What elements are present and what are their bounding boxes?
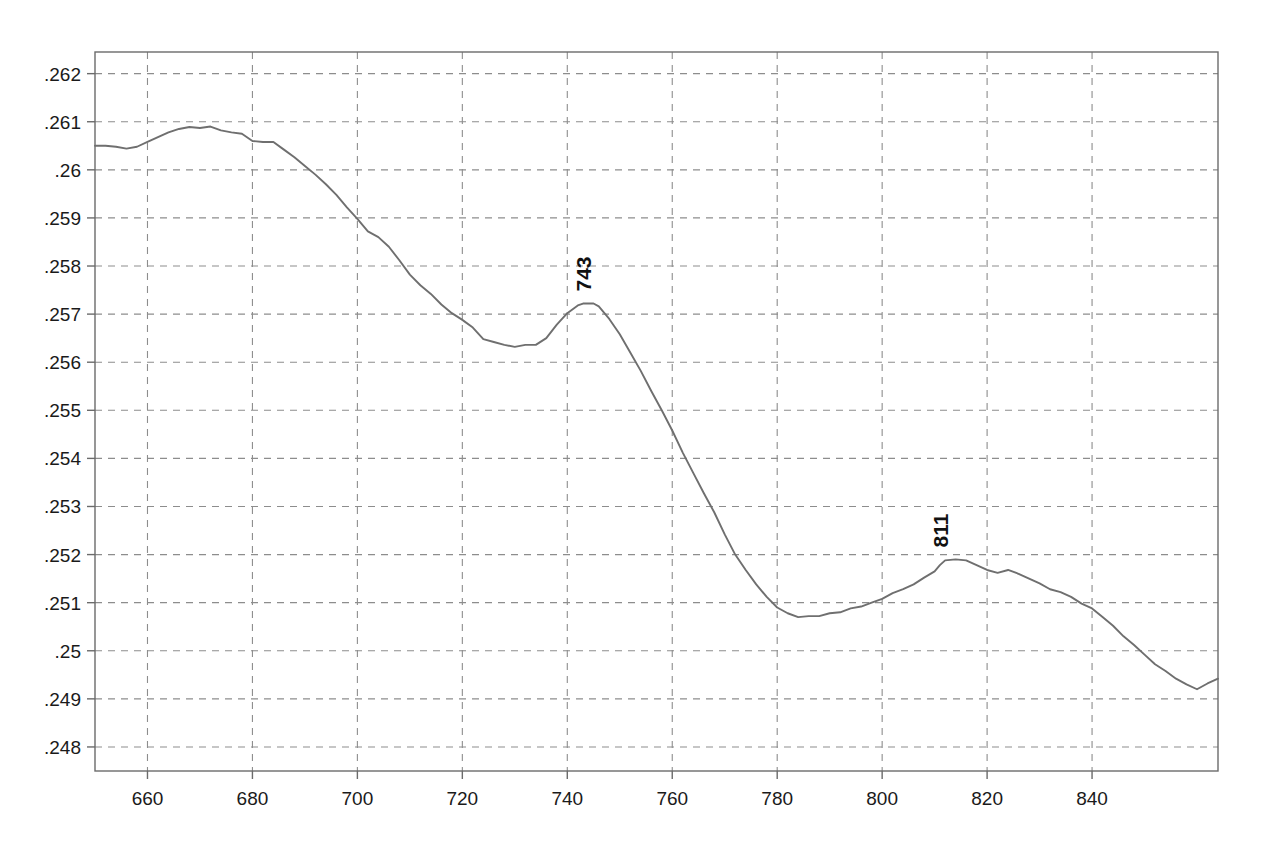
y-tick-label: .254	[44, 448, 81, 469]
y-tick-label: .261	[44, 112, 81, 133]
x-tick-label: 720	[446, 788, 478, 809]
y-tick-label: .251	[44, 593, 81, 614]
x-tick-label: 800	[866, 788, 898, 809]
data-series-group	[95, 127, 1218, 690]
y-tick-label: .25	[55, 641, 81, 662]
y-tick-label: .252	[44, 545, 81, 566]
y-axis-tick-labels: .248.249.25.251.252.253.254.255.256.257.…	[44, 64, 81, 758]
y-axis-ticks	[87, 74, 95, 747]
x-tick-label: 820	[971, 788, 1003, 809]
y-tick-label: .259	[44, 208, 81, 229]
x-tick-label: 660	[132, 788, 164, 809]
y-tick-label: .257	[44, 304, 81, 325]
plot-border	[95, 52, 1218, 771]
peak-label: 743	[572, 256, 595, 291]
x-tick-label: 740	[551, 788, 583, 809]
peak-label: 811	[929, 513, 952, 547]
horizontal-gridlines	[95, 74, 1218, 747]
x-axis-ticks	[147, 771, 1092, 779]
y-tick-label: .256	[44, 352, 81, 373]
y-tick-label: .262	[44, 64, 81, 85]
y-tick-label: .255	[44, 400, 81, 421]
peak-annotations: 743811	[572, 256, 952, 547]
y-tick-label: .26	[55, 160, 81, 181]
plot-frame	[95, 52, 1218, 771]
chart-svg: .248.249.25.251.252.253.254.255.256.257.…	[0, 0, 1268, 845]
series-line-spectrum	[95, 127, 1218, 690]
y-tick-label: .253	[44, 496, 81, 517]
y-tick-label: .258	[44, 256, 81, 277]
vertical-gridlines	[147, 52, 1092, 771]
x-tick-label: 680	[237, 788, 269, 809]
x-tick-label: 760	[656, 788, 688, 809]
x-tick-label: 780	[761, 788, 793, 809]
x-tick-label: 700	[342, 788, 374, 809]
y-tick-label: .248	[44, 737, 81, 758]
x-axis-tick-labels: 660680700720740760780800820840	[132, 788, 1108, 809]
x-tick-label: 840	[1076, 788, 1108, 809]
line-chart: .248.249.25.251.252.253.254.255.256.257.…	[0, 0, 1268, 845]
y-tick-label: .249	[44, 689, 81, 710]
